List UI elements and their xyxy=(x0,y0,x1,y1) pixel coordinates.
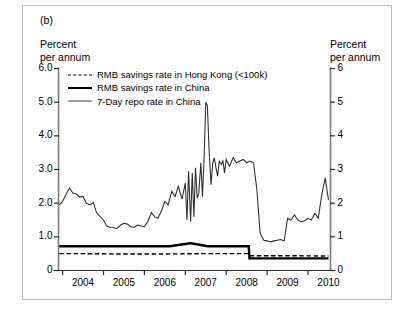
legend-key-dashed-line-icon xyxy=(68,70,92,80)
y-axis-tick-label-right: 0 xyxy=(338,264,360,275)
y-axis-tick-label-right: 3 xyxy=(338,163,360,174)
legend-key-thin-line-icon xyxy=(68,96,92,106)
x-axis-tick-label: 2007 xyxy=(184,277,228,288)
right-axis-title: Percent per annum xyxy=(330,38,380,63)
y-axis-tick-label-left: 2.0 xyxy=(27,197,53,208)
legend-item-hk-savings: RMB savings rate in Hong Kong (<100k) xyxy=(68,68,267,81)
legend-label-repo-rate: 7-Day repo rate in China xyxy=(97,95,201,108)
legend-item-repo-rate: 7-Day repo rate in China xyxy=(68,95,267,108)
x-axis-tick-label: 2008 xyxy=(225,277,269,288)
x-axis-tick-label: 2010 xyxy=(306,277,350,288)
y-axis-tick-label-left: 4.0 xyxy=(27,129,53,140)
y-axis-tick-label-right: 4 xyxy=(338,129,360,140)
left-axis-title: Percent per annum xyxy=(40,38,90,63)
y-axis-tick-label-right: 5 xyxy=(338,96,360,107)
y-axis-tick-label-left: 0 xyxy=(27,264,53,275)
y-axis-tick-label-right: 1 xyxy=(338,230,360,241)
legend-label-china-savings: RMB savings rate in China xyxy=(97,81,209,94)
y-axis-tick-label-left: 3.0 xyxy=(27,163,53,174)
legend-label-hk-savings: RMB savings rate in Hong Kong (<100k) xyxy=(97,68,267,81)
x-axis-tick-label: 2005 xyxy=(102,277,146,288)
panel-label: (b) xyxy=(40,14,53,26)
x-axis-tick-label: 2004 xyxy=(61,277,105,288)
chart-legend: RMB savings rate in Hong Kong (<100k) RM… xyxy=(68,68,267,108)
legend-item-china-savings: RMB savings rate in China xyxy=(68,81,267,94)
y-axis-tick-label-right: 2 xyxy=(338,197,360,208)
y-axis-tick-label-left: 1.0 xyxy=(27,230,53,241)
x-axis-tick-label: 2006 xyxy=(143,277,187,288)
y-axis-tick-label-left: 6.0 xyxy=(27,62,53,73)
y-axis-tick-label-left: 5.0 xyxy=(27,96,53,107)
x-axis-tick-label: 2009 xyxy=(266,277,310,288)
legend-key-thick-line-icon xyxy=(68,83,92,93)
y-axis-tick-label-right: 6 xyxy=(338,62,360,73)
